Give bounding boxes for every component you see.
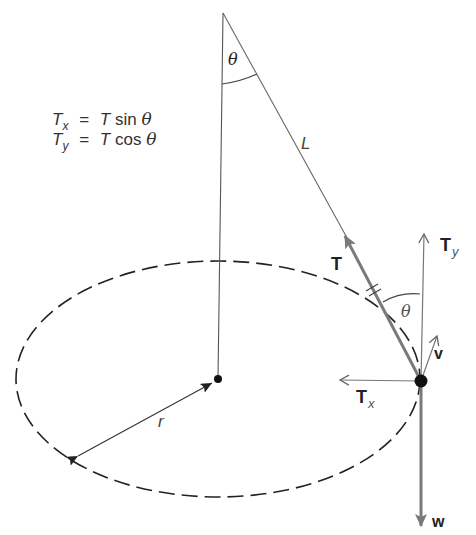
eq-sign: =: [79, 130, 89, 149]
equation-ty: Ty = T cos θ: [52, 131, 156, 148]
equation-tx: Tx = T sin θ: [52, 111, 152, 128]
eq-sign: =: [79, 110, 89, 129]
theta-label-top: θ: [228, 52, 238, 68]
tension-x-label: Tx: [356, 388, 375, 406]
eq-lhs: T: [52, 110, 62, 129]
conical-pendulum-diagram: Tx = T sin θ Ty = T cos θ θ L T Ty θ v T…: [0, 0, 476, 535]
vertical-axis-line: [218, 13, 223, 379]
radius-label: r: [158, 413, 164, 430]
eq-rhs-var: T: [100, 130, 110, 149]
eq-angle: θ: [141, 109, 151, 129]
tension-x-sub: x: [368, 396, 375, 411]
length-label: L: [301, 135, 310, 152]
diagram-canvas: [0, 0, 476, 535]
tension-y-label: Ty: [440, 236, 459, 254]
tension-x-vector: [340, 380, 421, 381]
string-line: [223, 13, 346, 236]
pendulum-bob: [415, 375, 428, 388]
eq-sub: y: [62, 139, 68, 153]
weight-label: w: [432, 514, 444, 530]
tension-x-main: T: [356, 387, 367, 407]
tension-y-main: T: [440, 235, 451, 255]
tension-y-vector: [421, 234, 424, 381]
velocity-label: v: [434, 346, 443, 362]
eq-fn: cos: [115, 130, 141, 149]
eq-lhs: T: [52, 130, 62, 149]
eq-rhs-var: T: [100, 110, 110, 129]
eq-angle: θ: [146, 129, 156, 149]
tension-label: T: [331, 255, 342, 273]
theta-arc-bob: [383, 294, 420, 302]
center-point: [214, 375, 222, 383]
eq-fn: sin: [115, 110, 137, 129]
radius-arrow: [78, 383, 212, 456]
theta-arc-top: [222, 74, 257, 84]
theta-label-bob: θ: [401, 304, 411, 320]
tension-y-sub: y: [452, 244, 459, 259]
